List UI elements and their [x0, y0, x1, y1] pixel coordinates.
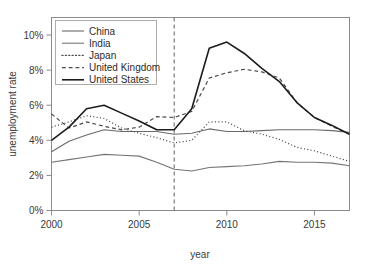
- y-tick-label: 6%: [29, 100, 44, 111]
- legend-label-united-kingdom: United Kingdom: [89, 62, 160, 73]
- y-axis-title: unemployment rate: [7, 71, 18, 157]
- chart-canvas: 0%2%4%6%8%10% 2000200520102015 unemploym…: [0, 0, 367, 273]
- legend-label-united-states: United States: [89, 74, 149, 85]
- y-tick-label: 0%: [29, 205, 44, 216]
- chart-background: [0, 0, 367, 273]
- y-tick-label: 2%: [29, 170, 44, 181]
- y-tick-label: 4%: [29, 135, 44, 146]
- legend-label-india: India: [89, 38, 111, 49]
- x-tick-label: 2015: [303, 219, 326, 230]
- x-tick-label: 2005: [128, 219, 151, 230]
- legend-label-japan: Japan: [89, 50, 116, 61]
- x-axis-title: year: [190, 249, 210, 260]
- legend-label-china: China: [89, 26, 116, 37]
- x-tick-label: 2010: [216, 219, 239, 230]
- y-tick-label: 10%: [23, 30, 43, 41]
- x-tick-label: 2000: [40, 219, 63, 230]
- y-tick-label: 8%: [29, 65, 44, 76]
- unemployment-rate-line-chart: 0%2%4%6%8%10% 2000200520102015 unemploym…: [0, 0, 367, 273]
